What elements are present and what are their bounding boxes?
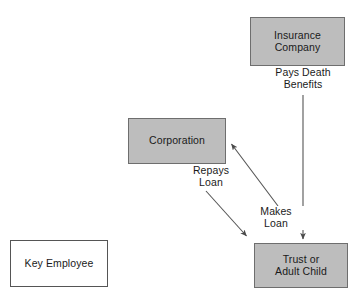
node-corporation-label: Corporation <box>129 135 225 147</box>
edge-label-makes-loan: Makes Loan <box>246 206 306 230</box>
edge-label-repays-loan: Repays Loan <box>181 165 241 189</box>
diagram-canvas: Insurance Company Corporation Trust or A… <box>0 0 364 306</box>
edge-label-pays-death-benefits: Pays Death Benefits <box>258 67 348 91</box>
node-corporation: Corporation <box>128 118 226 164</box>
node-insurance-company: Insurance Company <box>250 17 345 66</box>
node-trust-adult-child: Trust or Adult Child <box>254 243 348 288</box>
edge-repays-loan-line <box>206 191 247 236</box>
node-key-employee: Key Employee <box>10 240 108 287</box>
node-key-employee-label: Key Employee <box>11 258 107 270</box>
node-trust-adult-child-label: Trust or Adult Child <box>255 254 347 278</box>
node-insurance-company-label: Insurance Company <box>251 30 344 54</box>
